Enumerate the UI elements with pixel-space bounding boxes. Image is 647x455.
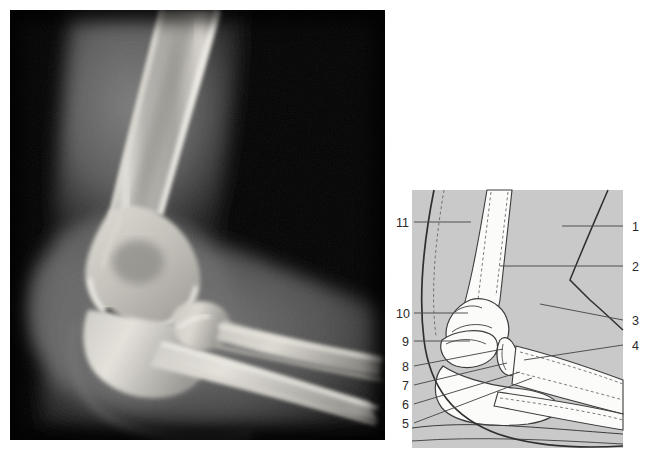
diagram-label-1: 1 (632, 220, 639, 234)
elbow-line-diagram: 11 10 9 8 7 6 5 1 2 3 4 (388, 118, 647, 448)
diagram-label-6: 6 (402, 398, 409, 412)
diagram-label-7: 7 (402, 379, 409, 393)
lateral-elbow-radiograph (10, 10, 385, 440)
film-grain (10, 10, 385, 440)
figure-root: S I P A (0, 0, 647, 455)
diagram-label-4: 4 (632, 339, 639, 353)
diagram-label-3: 3 (632, 314, 639, 328)
diagram-label-9: 9 (402, 335, 409, 349)
radiograph-image (10, 10, 385, 440)
diagram-label-8: 8 (402, 360, 409, 374)
diagram-graphic: 11 10 9 8 7 6 5 1 2 3 4 (388, 118, 647, 448)
diagram-label-10: 10 (396, 307, 410, 321)
diagram-label-2: 2 (632, 260, 639, 274)
diagram-label-5: 5 (402, 417, 409, 431)
diagram-label-11: 11 (396, 216, 409, 230)
